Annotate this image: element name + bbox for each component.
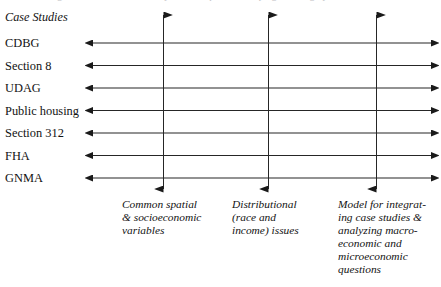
row-label-gnma: GNMA [5,172,43,184]
column-caption-1: Common spatial & socioeconomic variables [122,198,201,237]
caption-line: analyzing macro- [338,224,426,237]
caption-line: ing case studies & [338,211,426,224]
row-label-section-8: Section 8 [5,59,51,71]
caption-line: (race and [232,211,299,224]
column-caption-2: Distributional (race and income) issues [232,198,299,237]
row-label-section-312: Section 312 [5,127,64,139]
caption-line: questions [338,263,426,276]
caption-line: economic and [338,237,426,250]
row-label-cdbg: CDBG [5,37,39,49]
column-caption-3: Model for integrat- ing case studies & a… [338,198,426,277]
caption-line: Model for integrat- [338,198,426,211]
caption-line: microeconomic [338,250,426,263]
caption-line: & socioeconomic [122,211,201,224]
row-label-public-housing: Public housing [5,104,79,116]
row-label-fha: FHA [5,149,30,161]
caption-line: Distributional [232,198,299,211]
caption-line: income) issues [232,224,299,237]
figure-container: FIGURE 1. Organization of case studies b… [0,0,441,287]
row-label-udag: UDAG [5,82,41,94]
row-heading-case-studies: Case Studies [5,11,68,23]
caption-line: variables [122,224,201,237]
caption-line: Common spatial [122,198,201,211]
